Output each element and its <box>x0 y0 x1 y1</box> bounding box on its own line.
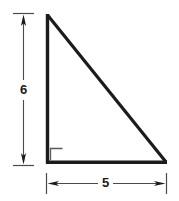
right-angle-marker-icon <box>51 149 63 161</box>
horizontal-dimension-label: 5 <box>102 175 109 190</box>
triangle-shape <box>46 14 167 164</box>
triangle-hypotenuse <box>48 15 167 162</box>
vertical-dimension: 6 <box>13 14 34 166</box>
right-triangle-figure: 6 5 <box>0 0 179 201</box>
horizontal-dimension: 5 <box>47 173 167 194</box>
figure-canvas: 6 5 <box>0 0 179 201</box>
vertical-dimension-label: 6 <box>20 82 27 97</box>
